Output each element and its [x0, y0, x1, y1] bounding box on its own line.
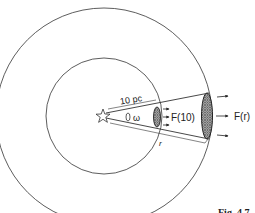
diagram-canvas: 10 pc r ω F(10) F(r) Fig. 4.7 [0, 0, 255, 213]
flux-diagram: 10 pc r ω F(10) F(r) Fig. 4.7 [0, 0, 255, 213]
star-icon [96, 109, 110, 122]
solid-angle-icon [126, 113, 130, 121]
distance-label: 10 pc [119, 93, 143, 106]
radius-label: r [159, 139, 162, 148]
outer-surface-patch [202, 93, 213, 139]
solid-angle-label: ω [133, 113, 140, 123]
flux-far-label: F(r) [234, 111, 250, 122]
figure-caption: Fig. 4.7 [218, 207, 249, 213]
outer-sphere [0, 8, 212, 213]
flux-near-label: F(10) [171, 112, 195, 123]
inner-surface-patch [154, 107, 161, 127]
